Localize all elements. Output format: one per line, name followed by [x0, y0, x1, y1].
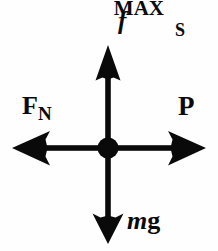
free-body-diagram: fMAXS FN P mg — [0, 0, 218, 251]
label-normal-force: FN — [22, 93, 52, 119]
normal-subscript-n: N — [38, 103, 52, 124]
weight-gravity-symbol: g — [147, 206, 160, 235]
weight-mass-symbol: m — [127, 206, 147, 235]
label-applied-force: P — [178, 93, 195, 120]
center-particle-dot — [98, 138, 119, 159]
friction-subscript-s: S — [175, 20, 185, 40]
friction-superscript-max: MAX — [114, 0, 164, 20]
friction-arrowhead-up-icon — [96, 45, 121, 81]
force-vectors-canvas — [0, 0, 218, 251]
label-maximum-static-friction: fMAXS — [118, 8, 186, 33]
applied-force-arrowhead-right-icon — [168, 131, 206, 166]
normal-force-arrowhead-left-icon — [12, 131, 50, 166]
normal-base-symbol: F — [22, 91, 38, 120]
label-weight: mg — [127, 208, 160, 234]
weight-arrowhead-down-icon — [93, 214, 124, 245]
